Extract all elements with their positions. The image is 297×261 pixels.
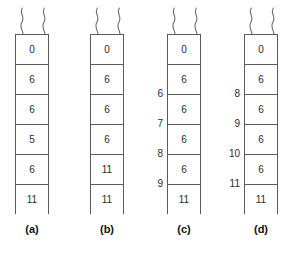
stack-cell: 6 [91, 95, 123, 125]
column-caption-b: (b) [90, 224, 124, 235]
column-caption-c: (c) [167, 224, 201, 235]
cell-value: 6 [258, 75, 264, 85]
stack-cell: 8 6 [245, 65, 277, 95]
stack-cell: 6 [16, 95, 48, 125]
cell-value: 6 [29, 165, 35, 175]
stack-cell: 6 6 [168, 65, 200, 95]
wavy-break-icon [167, 6, 203, 35]
cell-value: 0 [181, 45, 187, 55]
stack-cell: 6 [91, 65, 123, 95]
stack-cell: 5 [16, 125, 48, 155]
stack-cell: 11 [168, 185, 200, 215]
stack-cell: 10 6 [245, 125, 277, 155]
cell-value: 6 [258, 165, 264, 175]
stack-column-c: 0 6 6 7 6 8 6 9 6 11 [167, 34, 201, 214]
cell-value: 0 [104, 45, 110, 55]
stack-cell: 11 6 [245, 155, 277, 185]
stack-cell: 6 [16, 155, 48, 185]
stack-cell: 0 [245, 35, 277, 65]
stack-cell: 6 [91, 125, 123, 155]
stack-diagram-figure: 0 6 6 5 6 11 (a) [0, 0, 297, 261]
cell-value: 11 [102, 165, 112, 175]
cell-value: 6 [29, 75, 35, 85]
cell-value: 11 [27, 195, 37, 205]
cell-value: 0 [258, 45, 264, 55]
wavy-break-icon [15, 6, 51, 35]
stack-column-d: 0 8 6 9 6 10 6 11 6 11 [244, 34, 278, 214]
cell-value: 11 [179, 195, 189, 205]
stack-cell: 0 [168, 35, 200, 65]
stack-cell: 0 [91, 35, 123, 65]
cell-value: 6 [104, 135, 110, 145]
cell-index-label: 9 [218, 119, 240, 129]
cell-index-label: 7 [141, 119, 163, 129]
cell-index-label: 8 [141, 149, 163, 159]
cell-value: 11 [102, 195, 112, 205]
cell-value: 6 [29, 105, 35, 115]
cell-value: 6 [104, 105, 110, 115]
stack-cell: 9 6 [245, 95, 277, 125]
stack-cell: 8 6 [168, 125, 200, 155]
cell-value: 6 [181, 75, 187, 85]
cell-index-label: 6 [141, 89, 163, 99]
cell-index-label: 9 [141, 179, 163, 189]
stack-cell: 11 [91, 185, 123, 215]
cell-value: 6 [258, 105, 264, 115]
wavy-break-icon [90, 6, 126, 35]
cell-value: 6 [104, 75, 110, 85]
cell-value: 6 [258, 135, 264, 145]
column-caption-a: (a) [15, 224, 49, 235]
stack-column-group-c: 0 6 6 7 6 8 6 9 6 11 (c) [152, 0, 226, 261]
stack-cell: 9 6 [168, 155, 200, 185]
stack-cell: 0 [16, 35, 48, 65]
cell-index-label: 8 [218, 89, 240, 99]
column-caption-d: (d) [244, 224, 278, 235]
stack-cell: 11 [91, 155, 123, 185]
cell-value: 6 [181, 135, 187, 145]
stack-column-b: 0 6 6 6 11 11 [90, 34, 124, 214]
stack-column-group-b: 0 6 6 6 11 11 (b) [75, 0, 149, 261]
stack-cell: 11 [16, 185, 48, 215]
cell-value: 6 [181, 165, 187, 175]
stack-cell: 6 [16, 65, 48, 95]
stack-cell: 7 6 [168, 95, 200, 125]
stack-cell: 11 [245, 185, 277, 215]
stack-column-group-a: 0 6 6 5 6 11 (a) [0, 0, 74, 261]
cell-index-label: 11 [218, 179, 240, 189]
wavy-break-icon [244, 6, 280, 35]
stack-column-group-d: 0 8 6 9 6 10 6 11 6 11 (d) [229, 0, 297, 261]
cell-index-label: 10 [218, 149, 240, 159]
cell-value: 0 [29, 45, 35, 55]
cell-value: 11 [256, 195, 266, 205]
stack-column-a: 0 6 6 5 6 11 [15, 34, 49, 214]
cell-value: 5 [29, 135, 35, 145]
cell-value: 6 [181, 105, 187, 115]
